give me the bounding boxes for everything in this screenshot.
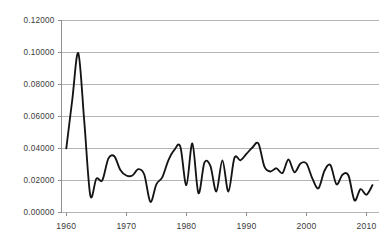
chart-container: 0.000000.020000.040000.060000.080000.100… [0,0,391,247]
gridlines [62,21,379,213]
y-axis-tick-labels: 0.000000.020000.040000.060000.080000.100… [24,16,55,217]
y-tick-label-3: 0.06000 [24,112,55,121]
y-tick-label-6: 0.12000 [24,16,55,25]
data-line-series-1 [66,53,372,202]
y-tick-label-0: 0.00000 [24,208,55,217]
y-tick-marks [58,21,62,213]
x-tick-label-2: 1980 [176,221,196,231]
x-tick-label-1: 1970 [116,221,136,231]
x-tick-label-3: 1990 [236,221,256,231]
x-axis-tick-labels: 196019701980199020002010 [56,221,376,231]
x-tick-label-4: 2000 [296,221,316,231]
x-tick-label-0: 1960 [56,221,76,231]
y-tick-label-5: 0.10000 [24,48,55,57]
y-tick-label-4: 0.08000 [24,80,55,89]
line-chart: 0.000000.020000.040000.060000.080000.100… [0,0,391,247]
y-tick-label-2: 0.04000 [24,144,55,153]
y-tick-label-1: 0.02000 [24,176,55,185]
x-tick-label-5: 2010 [357,221,377,231]
data-series-group [66,53,372,202]
